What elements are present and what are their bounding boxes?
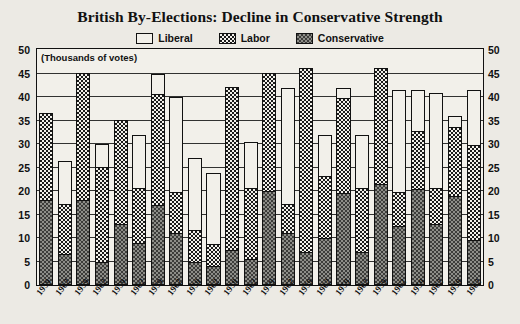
bar-segment-liberal	[95, 144, 109, 167]
y-tick-label: 25	[488, 162, 518, 174]
stacked-bar[interactable]	[151, 74, 165, 285]
bar-segment-conservative	[39, 200, 53, 285]
bar-segment-labor	[225, 87, 239, 251]
stacked-bar[interactable]	[58, 161, 72, 285]
bar-segment-labor	[336, 98, 350, 194]
stacked-bar[interactable]	[318, 135, 332, 285]
plot-frame: (Thousands of votes)	[36, 48, 484, 286]
bar-segment-conservative	[448, 196, 462, 285]
bar-segment-labor	[262, 73, 276, 193]
bar-segment-liberal	[188, 158, 202, 231]
stacked-bar[interactable]	[169, 97, 183, 285]
bar-slot	[390, 49, 409, 285]
bar-segment-liberal	[411, 90, 425, 132]
y-tick-label: 50	[488, 44, 518, 56]
stacked-bar[interactable]	[114, 120, 128, 285]
y-tick-label: 40	[488, 91, 518, 103]
bar-segment-conservative	[262, 191, 276, 285]
bar-segment-labor	[169, 192, 183, 234]
x-label-slot: 1962	[316, 287, 335, 324]
bar-slot	[93, 49, 112, 285]
y-tick-label: 40	[0, 91, 30, 103]
legend-label-labor: Labor	[241, 32, 270, 44]
bar-group	[37, 49, 483, 285]
x-label-slot: 1962	[428, 287, 447, 324]
chart-legend: Liberal Labor Conservative	[0, 32, 520, 44]
bar-slot	[111, 49, 130, 285]
bar-slot	[464, 49, 483, 285]
y-tick-label: 20	[488, 185, 518, 197]
y-tick-label: 10	[488, 232, 518, 244]
stacked-bar[interactable]	[206, 173, 220, 285]
stacked-bar[interactable]	[374, 68, 388, 285]
x-label-slot: 1959	[409, 287, 428, 324]
bar-segment-labor	[188, 230, 202, 263]
stacked-bar[interactable]	[429, 93, 443, 285]
stacked-bar[interactable]	[467, 90, 481, 285]
bar-segment-labor	[244, 188, 258, 261]
bar-segment-liberal	[392, 90, 406, 193]
bar-segment-labor	[95, 167, 109, 263]
y-tick-label: 50	[0, 44, 30, 56]
x-label-slot: 1962	[241, 287, 260, 324]
stacked-bar[interactable]	[355, 135, 369, 285]
y-tick-label: 5	[0, 256, 30, 268]
stacked-bar[interactable]	[336, 88, 350, 285]
stacked-bar[interactable]	[39, 113, 53, 285]
stacked-bar[interactable]	[225, 87, 239, 285]
stacked-bar[interactable]	[411, 90, 425, 285]
stacked-bar[interactable]	[299, 68, 313, 285]
y-tick-label: 45	[0, 68, 30, 80]
bar-slot	[186, 49, 205, 285]
bar-segment-labor	[355, 188, 369, 254]
legend-label-liberal: Liberal	[158, 32, 192, 44]
x-label-slot: 1962	[92, 287, 111, 324]
legend-item-labor: Labor	[219, 32, 270, 44]
bar-segment-labor	[374, 68, 388, 185]
bar-slot	[279, 49, 298, 285]
bar-segment-labor	[448, 127, 462, 197]
y-tick-label: 0	[488, 279, 518, 291]
x-label-slot: 1962	[204, 287, 223, 324]
axis-units-note: (Thousands of votes)	[41, 52, 137, 63]
stacked-bar[interactable]	[392, 90, 406, 285]
bar-segment-liberal	[206, 173, 220, 246]
x-axis-labels: 1959196219591962195919621959196219591962…	[36, 287, 484, 324]
x-label-slot: 1959	[335, 287, 354, 324]
bar-segment-labor	[151, 94, 165, 207]
x-label-slot: 1959	[223, 287, 242, 324]
x-label-slot: 1962	[279, 287, 298, 324]
bar-segment-liberal	[132, 135, 146, 189]
bar-segment-liberal	[281, 88, 295, 205]
y-tick-label: 0	[0, 279, 30, 291]
y-tick-label: 35	[488, 115, 518, 127]
bar-slot	[223, 49, 242, 285]
stacked-bar[interactable]	[448, 116, 462, 285]
bar-segment-conservative	[76, 200, 90, 285]
bar-slot	[353, 49, 372, 285]
stacked-bar[interactable]	[95, 144, 109, 285]
bar-segment-labor	[58, 204, 72, 256]
bar-segment-labor	[411, 131, 425, 190]
y-tick-label: 45	[488, 68, 518, 80]
stacked-bar[interactable]	[76, 73, 90, 285]
x-label-slot: 1959	[447, 287, 466, 324]
bar-slot	[260, 49, 279, 285]
x-label-slot: 1962	[353, 287, 372, 324]
stacked-bar[interactable]	[188, 158, 202, 285]
bar-slot	[409, 49, 428, 285]
bar-segment-liberal	[169, 97, 183, 193]
stacked-bar[interactable]	[132, 135, 146, 285]
bar-segment-labor	[467, 145, 481, 241]
bar-segment-labor	[39, 113, 53, 202]
bar-segment-conservative	[151, 205, 165, 285]
x-label-slot: 1959	[297, 287, 316, 324]
stacked-bar[interactable]	[262, 73, 276, 285]
y-tick-label: 25	[0, 162, 30, 174]
stacked-bar[interactable]	[244, 142, 258, 285]
bar-slot	[334, 49, 353, 285]
x-label-slot: 1959	[372, 287, 391, 324]
legend-item-conservative: Conservative	[296, 32, 384, 44]
stacked-bar[interactable]	[281, 88, 295, 285]
page-title: British By-Elections: Decline in Conserv…	[0, 8, 520, 26]
